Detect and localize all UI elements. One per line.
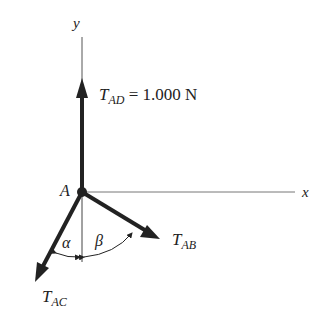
- t-ac-label: TAC: [42, 287, 68, 309]
- t-ad-subscript: AD: [107, 93, 124, 107]
- t-ad-label: TAD = 1.000 N: [99, 85, 197, 107]
- t-ab-label: TAB: [172, 230, 197, 252]
- point-a-label: A: [59, 182, 70, 199]
- alpha-label: α: [62, 234, 71, 251]
- beta-angle-arc: [84, 233, 132, 257]
- t-ac-subscript: AC: [50, 295, 67, 309]
- t-ab-subscript: AB: [180, 238, 196, 252]
- force-t-ab-arrow: [82, 192, 148, 232]
- force-t-ac-arrowhead-icon: [35, 262, 49, 282]
- force-t-ac-arrow: [42, 192, 82, 268]
- t-ad-value: = 1.000 N: [124, 85, 197, 104]
- beta-label: β: [94, 232, 103, 250]
- point-a: [77, 187, 87, 197]
- force-t-ad-arrowhead-icon: [76, 78, 88, 98]
- y-axis-label: y: [71, 15, 80, 31]
- alpha-angle-arc: [56, 253, 80, 257]
- force-diagram: y x A TAD = 1.000 N TAB TAC α β: [0, 0, 322, 313]
- x-axis-label: x: [301, 184, 309, 200]
